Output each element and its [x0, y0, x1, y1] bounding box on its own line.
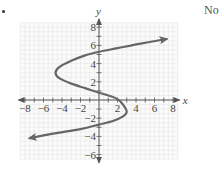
y-tick-label: 2 [91, 76, 97, 88]
y-tick-label: −6 [84, 149, 96, 161]
x-tick-label: −4 [56, 102, 68, 114]
y-tick-label: 4 [91, 58, 97, 70]
y-tick-label: 6 [91, 39, 97, 51]
x-axis-label: x [182, 94, 188, 106]
x-tick-label: −6 [38, 102, 50, 114]
x-tick-label: −8 [19, 102, 31, 114]
graph: −8−6−4−224688642−2−4−6xy [0, 0, 223, 170]
x-tick-label: 2 [115, 102, 121, 114]
y-tick-label: −4 [84, 130, 96, 142]
x-tick-label: 6 [152, 102, 158, 114]
y-tick-label: −2 [84, 112, 96, 124]
x-tick-label: 4 [133, 102, 139, 114]
y-tick-label: 8 [91, 21, 97, 33]
x-tick-label: 8 [170, 102, 176, 114]
y-axis-label: y [95, 5, 101, 17]
